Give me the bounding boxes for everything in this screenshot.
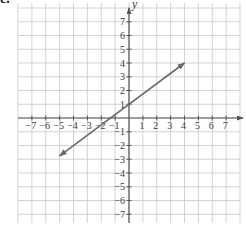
x-tick-label: −5 xyxy=(53,120,64,131)
y-tick-label: −5 xyxy=(114,181,125,192)
x-tick-label: 2 xyxy=(153,120,158,131)
y-tick-label: 6 xyxy=(120,30,125,41)
x-tick-label: −4 xyxy=(67,120,78,131)
x-tick-label: −7 xyxy=(26,120,37,131)
x-tick-label: 6 xyxy=(209,120,214,131)
y-tick-label: 5 xyxy=(120,44,125,55)
y-tick-label: −3 xyxy=(114,154,125,165)
y-tick-label: 7 xyxy=(120,16,125,27)
y-tick-label: 3 xyxy=(120,71,125,82)
x-tick-label: 3 xyxy=(167,120,172,131)
x-tick-label: −3 xyxy=(81,120,92,131)
y-tick-label: −6 xyxy=(114,195,125,206)
y-tick-label: 2 xyxy=(120,85,125,96)
x-tick-label: 7 xyxy=(223,120,228,131)
y-tick-label: 4 xyxy=(120,58,125,69)
y-tick-label: −2 xyxy=(114,140,125,151)
y-tick-label: −7 xyxy=(114,209,125,220)
y-axis-label: y xyxy=(131,0,138,11)
x-tick-label: 1 xyxy=(139,120,144,131)
coordinate-plane: −7−6−5−4−3−2−11234567−7−6−5−4−3−2−112345… xyxy=(0,0,246,227)
x-tick-label: 5 xyxy=(195,120,200,131)
axes xyxy=(18,8,243,223)
y-tick-label: −1 xyxy=(114,126,125,137)
x-tick-label: −6 xyxy=(39,120,50,131)
x-tick-label: 4 xyxy=(181,120,186,131)
y-tick-label: −4 xyxy=(114,168,125,179)
